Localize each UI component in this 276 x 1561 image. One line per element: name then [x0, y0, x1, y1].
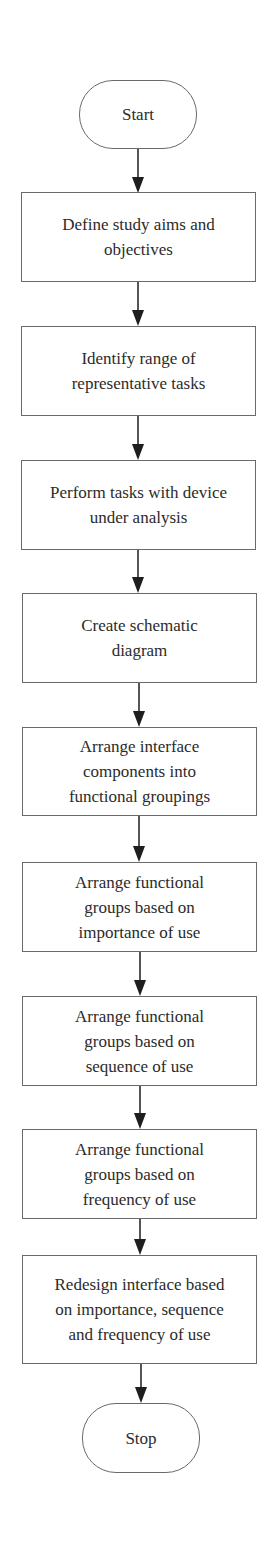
arrow-start-to-step-1: [131, 149, 145, 193]
step-perform-tasks: Perform tasks with device under analysis: [21, 460, 256, 550]
arrow-step-2-to-step-3: [131, 416, 145, 460]
arrow-step-1-to-step-2: [131, 282, 145, 326]
arrow-step-8-to-step-9: [133, 1219, 147, 1255]
arrow-shaft: [137, 416, 139, 446]
stop-terminal: Stop: [82, 1403, 200, 1473]
arrow-shaft: [139, 952, 141, 982]
step-label: Arrange functional groups based on impor…: [23, 870, 256, 945]
arrow-shaft: [138, 816, 140, 848]
arrow-step-5-to-step-6: [132, 816, 146, 862]
arrow-step-7-to-step-8: [133, 1086, 147, 1129]
arrow-head-icon: [132, 310, 144, 326]
arrow-shaft: [137, 550, 139, 579]
step-redesign-interface: Redesign interface based on importance, …: [22, 1255, 257, 1364]
arrow-step-6-to-step-7: [133, 952, 147, 996]
step-label: Create schematic diagram: [23, 613, 256, 663]
arrow-step-9-to-stop: [134, 1364, 148, 1403]
arrow-head-icon: [134, 1239, 146, 1255]
arrow-head-icon: [134, 1113, 146, 1129]
arrow-head-icon: [132, 444, 144, 460]
stop-label: Stop: [115, 1426, 166, 1451]
step-label: Perform tasks with device under analysis: [22, 480, 255, 530]
arrow-head-icon: [132, 177, 144, 193]
step-arrange-sequence: Arrange functional groups based on seque…: [22, 996, 257, 1086]
arrow-head-icon: [133, 711, 145, 727]
arrow-shaft: [140, 1364, 142, 1389]
step-label: Identify range of representative tasks: [22, 346, 255, 396]
arrow-head-icon: [133, 846, 145, 862]
arrow-shaft: [137, 282, 139, 312]
step-label: Arrange functional groups based on frequ…: [23, 1137, 256, 1212]
start-label: Start: [112, 102, 164, 127]
arrow-head-icon: [135, 1387, 147, 1403]
arrow-shaft: [139, 1219, 141, 1241]
step-arrange-importance: Arrange functional groups based on impor…: [22, 862, 257, 952]
arrow-shaft: [139, 1086, 141, 1115]
arrow-head-icon: [134, 980, 146, 996]
step-arrange-components: Arrange interface components into functi…: [22, 727, 257, 816]
step-identify-tasks: Identify range of representative tasks: [21, 326, 256, 416]
arrow-head-icon: [132, 577, 144, 593]
step-create-schematic: Create schematic diagram: [22, 593, 257, 683]
step-arrange-frequency: Arrange functional groups based on frequ…: [22, 1129, 257, 1219]
arrow-shaft: [137, 149, 139, 179]
step-label: Arrange functional groups based on seque…: [23, 1004, 256, 1079]
step-label: Arrange interface components into functi…: [23, 734, 256, 809]
step-label: Define study aims and objectives: [22, 212, 255, 262]
arrow-shaft: [138, 683, 140, 713]
step-label: Redesign interface based on importance, …: [23, 1272, 256, 1347]
arrow-step-4-to-step-5: [132, 683, 146, 727]
start-terminal: Start: [79, 80, 197, 149]
arrow-step-3-to-step-4: [131, 550, 145, 593]
step-define-aims: Define study aims and objectives: [21, 192, 256, 282]
